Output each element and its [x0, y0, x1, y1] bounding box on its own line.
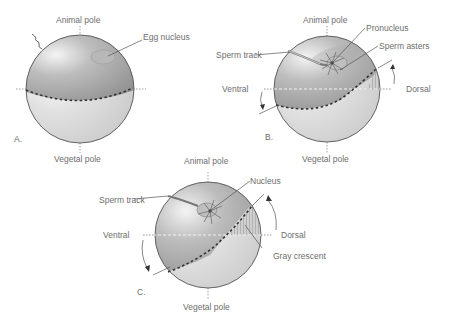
panel-a-animal-pole-label: Animal pole: [56, 15, 100, 25]
panel-b-vegetal-pole-label: Vegetal pole: [302, 154, 349, 164]
rotation-arrow-icon: [260, 104, 265, 110]
panel-a-egg: [16, 26, 146, 153]
panel-c-sperm-track-label: Sperm track: [99, 195, 145, 205]
nucleus-label: Nucleus: [250, 176, 281, 186]
sperm-asters-label: Sperm asters: [379, 41, 430, 51]
gray-crescent-label: Gray crescent: [273, 251, 326, 261]
panel-c-label: C.: [137, 287, 146, 297]
panel-b-ventral-label: Ventral: [222, 84, 248, 94]
panel-b-dorsal-label: Dorsal: [406, 84, 431, 94]
panel-c-ventral-label: Ventral: [103, 230, 129, 240]
panel-b-fertilized: [255, 26, 395, 153]
panel-b-sperm-track-label: Sperm track: [216, 50, 262, 60]
rotation-arrow-icon: [390, 64, 395, 69]
panel-a-vegetal-pole-label: Vegetal pole: [54, 154, 101, 164]
panel-c-dorsal-label: Dorsal: [281, 230, 306, 240]
panel-c-animal-pole-label: Animal pole: [184, 156, 228, 166]
egg-nucleus-label: Egg nucleus: [143, 32, 190, 42]
egg-nucleus-shape: [91, 50, 115, 64]
panel-b-animal-pole-label: Animal pole: [303, 15, 347, 25]
panel-c-rotated: [134, 172, 276, 300]
panel-a-label: A.: [14, 134, 22, 144]
pronucleus-label: Pronucleus: [366, 23, 409, 33]
sperm-icon: [32, 34, 42, 49]
rotation-arrow-icon: [266, 195, 272, 201]
panel-b-label: B.: [265, 132, 273, 142]
panel-c-vegetal-pole-label: Vegetal pole: [183, 302, 230, 312]
